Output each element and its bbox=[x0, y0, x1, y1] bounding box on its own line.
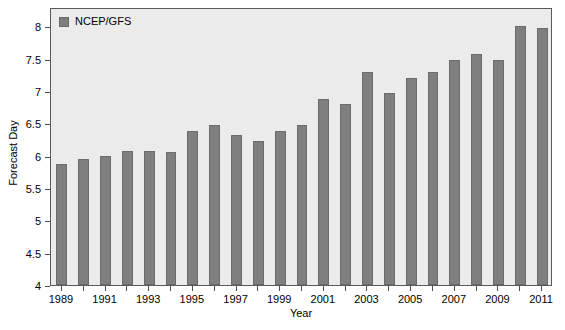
x-tick-mark bbox=[454, 286, 455, 291]
x-tick-mark bbox=[83, 286, 84, 291]
x-tick-mark bbox=[148, 286, 149, 291]
bar bbox=[493, 60, 504, 285]
bar bbox=[209, 125, 220, 285]
legend-label: NCEP/GFS bbox=[75, 16, 131, 27]
x-tick-label: 1993 bbox=[136, 293, 160, 305]
x-axis: 1989199119931995199719992001200320052007… bbox=[50, 286, 552, 326]
x-tick-mark bbox=[126, 286, 127, 291]
y-tick-label: 8 bbox=[35, 21, 41, 33]
plot-area: NCEP/GFS bbox=[50, 8, 552, 286]
y-tick-label: 6 bbox=[35, 151, 41, 163]
bar bbox=[78, 159, 89, 285]
bar bbox=[471, 54, 482, 285]
x-tick-mark bbox=[476, 286, 477, 291]
bar bbox=[515, 26, 526, 285]
bar bbox=[144, 151, 155, 285]
y-tick-label: 4.5 bbox=[26, 248, 41, 260]
bar bbox=[362, 72, 373, 285]
y-tick-label: 7.5 bbox=[26, 54, 41, 66]
bar bbox=[406, 78, 417, 285]
x-axis-title: Year bbox=[50, 307, 552, 319]
bar bbox=[187, 131, 198, 285]
x-tick-mark bbox=[497, 286, 498, 291]
y-tick-label: 5 bbox=[35, 215, 41, 227]
x-tick-label: 1991 bbox=[92, 293, 116, 305]
x-tick-label: 1997 bbox=[223, 293, 247, 305]
bar bbox=[100, 156, 111, 285]
y-tick-label: 4 bbox=[35, 280, 41, 292]
x-tick-mark bbox=[279, 286, 280, 291]
x-tick-label: 1995 bbox=[180, 293, 204, 305]
x-tick-mark bbox=[366, 286, 367, 291]
bar bbox=[231, 135, 242, 285]
x-tick-mark bbox=[61, 286, 62, 291]
bar bbox=[318, 99, 329, 285]
bar bbox=[384, 93, 395, 285]
bar bbox=[537, 28, 548, 285]
y-tick-label: 5.5 bbox=[26, 183, 41, 195]
square-swatch-icon bbox=[59, 17, 69, 27]
x-tick-mark bbox=[214, 286, 215, 291]
x-tick-label: 1999 bbox=[267, 293, 291, 305]
bar bbox=[340, 104, 351, 285]
x-tick-mark bbox=[388, 286, 389, 291]
x-tick-label: 2009 bbox=[485, 293, 509, 305]
x-tick-label: 2001 bbox=[311, 293, 335, 305]
x-tick-mark bbox=[541, 286, 542, 291]
x-tick-label: 2007 bbox=[442, 293, 466, 305]
x-tick-label: 2003 bbox=[354, 293, 378, 305]
x-tick-mark bbox=[432, 286, 433, 291]
bars-layer bbox=[51, 9, 551, 285]
x-tick-mark bbox=[236, 286, 237, 291]
x-tick-mark bbox=[105, 286, 106, 291]
x-tick-mark bbox=[519, 286, 520, 291]
legend: NCEP/GFS bbox=[59, 16, 131, 27]
bar bbox=[56, 164, 67, 285]
bar bbox=[275, 131, 286, 285]
x-tick-mark bbox=[192, 286, 193, 291]
y-tick-label: 6.5 bbox=[26, 118, 41, 130]
x-tick-mark bbox=[323, 286, 324, 291]
bar-chart: 44.555.566.577.58 Forecast Day NCEP/GFS … bbox=[0, 0, 565, 330]
x-tick-mark bbox=[170, 286, 171, 291]
x-tick-mark bbox=[345, 286, 346, 291]
y-axis-title: Forecast Day bbox=[7, 93, 19, 213]
x-tick-label: 1989 bbox=[49, 293, 73, 305]
x-tick-mark bbox=[257, 286, 258, 291]
bar bbox=[122, 151, 133, 285]
bar bbox=[253, 141, 264, 285]
bar bbox=[297, 125, 308, 285]
x-tick-mark bbox=[301, 286, 302, 291]
bar bbox=[428, 72, 439, 285]
x-tick-mark bbox=[410, 286, 411, 291]
y-tick-label: 7 bbox=[35, 86, 41, 98]
bar bbox=[449, 60, 460, 285]
bar bbox=[166, 152, 177, 285]
x-tick-label: 2011 bbox=[529, 293, 553, 305]
x-tick-label: 2005 bbox=[398, 293, 422, 305]
